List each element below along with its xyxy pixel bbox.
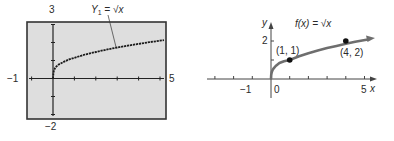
left-xmax-label: 5 <box>169 73 175 84</box>
right-y-axis-label: y <box>261 17 268 28</box>
right-x-axis-label: x <box>369 83 376 94</box>
right-x-tick-neg1: −1 <box>240 84 252 95</box>
left-xmin-label: −1 <box>7 73 19 84</box>
right-x-tick-0: 0 <box>274 84 280 95</box>
left-ymin-label: −2 <box>45 121 57 132</box>
calculator-graph: 3 −2 −1 5 Y1 = √x <box>7 4 175 132</box>
point-1-1 <box>287 57 293 63</box>
point-1-1-label: (1, 1) <box>276 45 299 56</box>
right-y-tick-2: 2 <box>262 35 268 46</box>
figure: 3 −2 −1 5 Y1 = √x <box>0 0 394 141</box>
x-axis-arrow-icon <box>370 77 377 82</box>
y-axis-arrow-icon <box>269 22 274 29</box>
calculator-screen-frame <box>27 22 166 119</box>
function-graph: y x f(x) = √x 2 −1 0 5 (1, 1) (4, 2) <box>207 17 377 98</box>
point-4-2-label: (4, 2) <box>340 47 363 58</box>
callout-rest: = √x <box>102 4 125 15</box>
curve-arrow-icon <box>366 36 375 43</box>
point-4-2 <box>343 38 349 44</box>
left-ymax-label: 3 <box>49 4 55 15</box>
right-x-tick-5: 5 <box>361 84 367 95</box>
function-label: f(x) = √x <box>295 18 332 29</box>
callout-label: Y1 = √x <box>91 4 124 16</box>
